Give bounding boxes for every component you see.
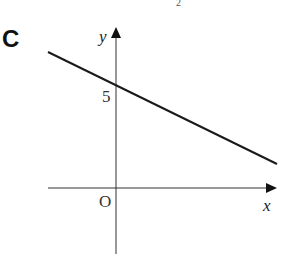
- graph-svg: 2 C y x 5 O: [0, 0, 289, 262]
- x-axis-label: x: [262, 196, 271, 215]
- y-axis-arrow-icon: [111, 27, 121, 38]
- x-axis-arrow-icon: [266, 183, 277, 193]
- plotted-line: [48, 52, 277, 164]
- y-intercept-label: 5: [102, 87, 111, 106]
- origin-label: O: [99, 192, 111, 211]
- y-axis-label: y: [97, 27, 107, 46]
- diagram-canvas: 2 C y x 5 O: [0, 0, 289, 262]
- top-fragment: 2: [176, 0, 181, 8]
- option-label: C: [2, 25, 19, 52]
